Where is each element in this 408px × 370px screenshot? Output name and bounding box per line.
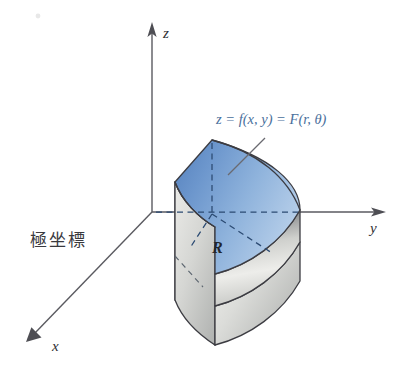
y-axis-label: y [368, 220, 377, 236]
x-axis-label: x [51, 338, 59, 354]
polar-coordinates-caption: 極坐標 [30, 230, 87, 250]
figure-container: z y x z = f(x, y) = F(r, θ) R 極坐標 [0, 0, 408, 370]
z-axis-label: z [162, 25, 169, 41]
polar-coordinates-diagram: z y x z = f(x, y) = F(r, θ) R 極坐標 [0, 0, 408, 370]
region-label-R: R [211, 239, 223, 256]
scan-artifact-dot [36, 14, 41, 19]
surface-formula-label: z = f(x, y) = F(r, θ) [215, 111, 327, 128]
